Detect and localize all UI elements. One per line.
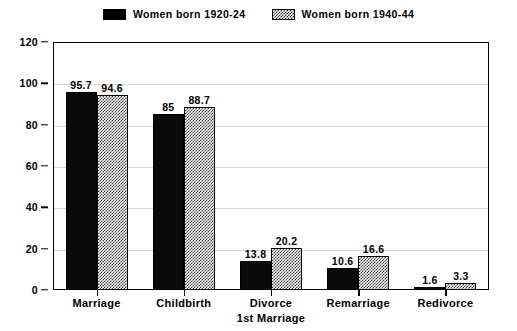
y-tick-label: 120 <box>20 36 38 48</box>
bar-value-label: 95.7 <box>70 79 92 91</box>
legend-label-series-1: Women born 1920-24 <box>133 9 246 20</box>
y-tick-mark <box>41 165 48 166</box>
bar: 13.8 <box>240 261 271 290</box>
x-axis-label: Remarriage <box>326 296 390 311</box>
chart-legend: Women born 1920-24 Women born 1940-44 <box>0 5 517 23</box>
legend-entry-women-born-1940-44: Women born 1940-44 <box>272 9 415 20</box>
x-axis-label-line-2: 1st Marriage <box>237 311 305 326</box>
y-tick-label: 20 <box>26 243 38 255</box>
y-tick-label: 60 <box>26 160 38 172</box>
bar-value-label: 20.2 <box>276 235 298 247</box>
bar-group: 95.794.6 <box>66 42 128 290</box>
bar-value-label: 94.6 <box>101 82 123 94</box>
legend-swatch-hatched-icon <box>272 9 295 20</box>
x-axis-label: Divorce1st Marriage <box>237 296 305 326</box>
bar-value-label: 13.8 <box>245 248 267 260</box>
y-tick-mark <box>41 248 48 249</box>
y-tick-mark <box>41 41 48 42</box>
legend-entry-women-born-1920-24: Women born 1920-24 <box>103 9 246 20</box>
x-axis-label: Marriage <box>72 296 120 311</box>
y-tick-label: 80 <box>26 119 38 131</box>
x-axis-label: Redivorce <box>417 296 473 311</box>
bar-value-label: 3.3 <box>453 270 469 282</box>
y-axis-labels: 020406080100120 <box>0 42 48 290</box>
legend-swatch-solid-icon <box>103 9 126 20</box>
bar: 10.6 <box>327 268 358 290</box>
bar-group: 13.820.2 <box>240 42 302 290</box>
bar: 88.7 <box>184 107 215 290</box>
x-axis-labels: MarriageChildbirthDivorce1st MarriageRem… <box>53 296 489 331</box>
legend-label-series-2: Women born 1940-44 <box>302 9 415 20</box>
bar: 95.7 <box>66 92 97 290</box>
bar-value-label: 1.6 <box>422 274 438 286</box>
y-tick-mark <box>41 83 48 84</box>
bar-group: 8588.7 <box>153 42 215 290</box>
y-tick-label: 100 <box>20 77 38 89</box>
bar-group: 10.616.6 <box>327 42 389 290</box>
bar-value-label: 16.6 <box>363 243 385 255</box>
y-tick-mark <box>41 207 48 208</box>
y-tick-mark <box>41 289 48 290</box>
bar-series-container: 95.794.68588.713.820.210.616.61.63.3 <box>53 42 489 290</box>
y-tick-label: 40 <box>26 201 38 213</box>
bar-value-label: 85 <box>162 101 174 113</box>
bar: 3.3 <box>445 283 476 290</box>
bar: 16.6 <box>358 256 389 290</box>
bar: 85 <box>153 114 184 290</box>
bar-chart-figure: Women born 1920-24 Women born 1940-44 02… <box>0 0 517 331</box>
x-axis-label: Childbirth <box>156 296 211 311</box>
bar: 20.2 <box>271 248 302 290</box>
bar-value-label: 10.6 <box>332 255 354 267</box>
bar-value-label: 88.7 <box>188 94 210 106</box>
bar: 94.6 <box>97 95 128 291</box>
bar-group: 1.63.3 <box>414 42 476 290</box>
y-tick-mark <box>41 124 48 125</box>
y-tick-label: 0 <box>32 284 38 296</box>
